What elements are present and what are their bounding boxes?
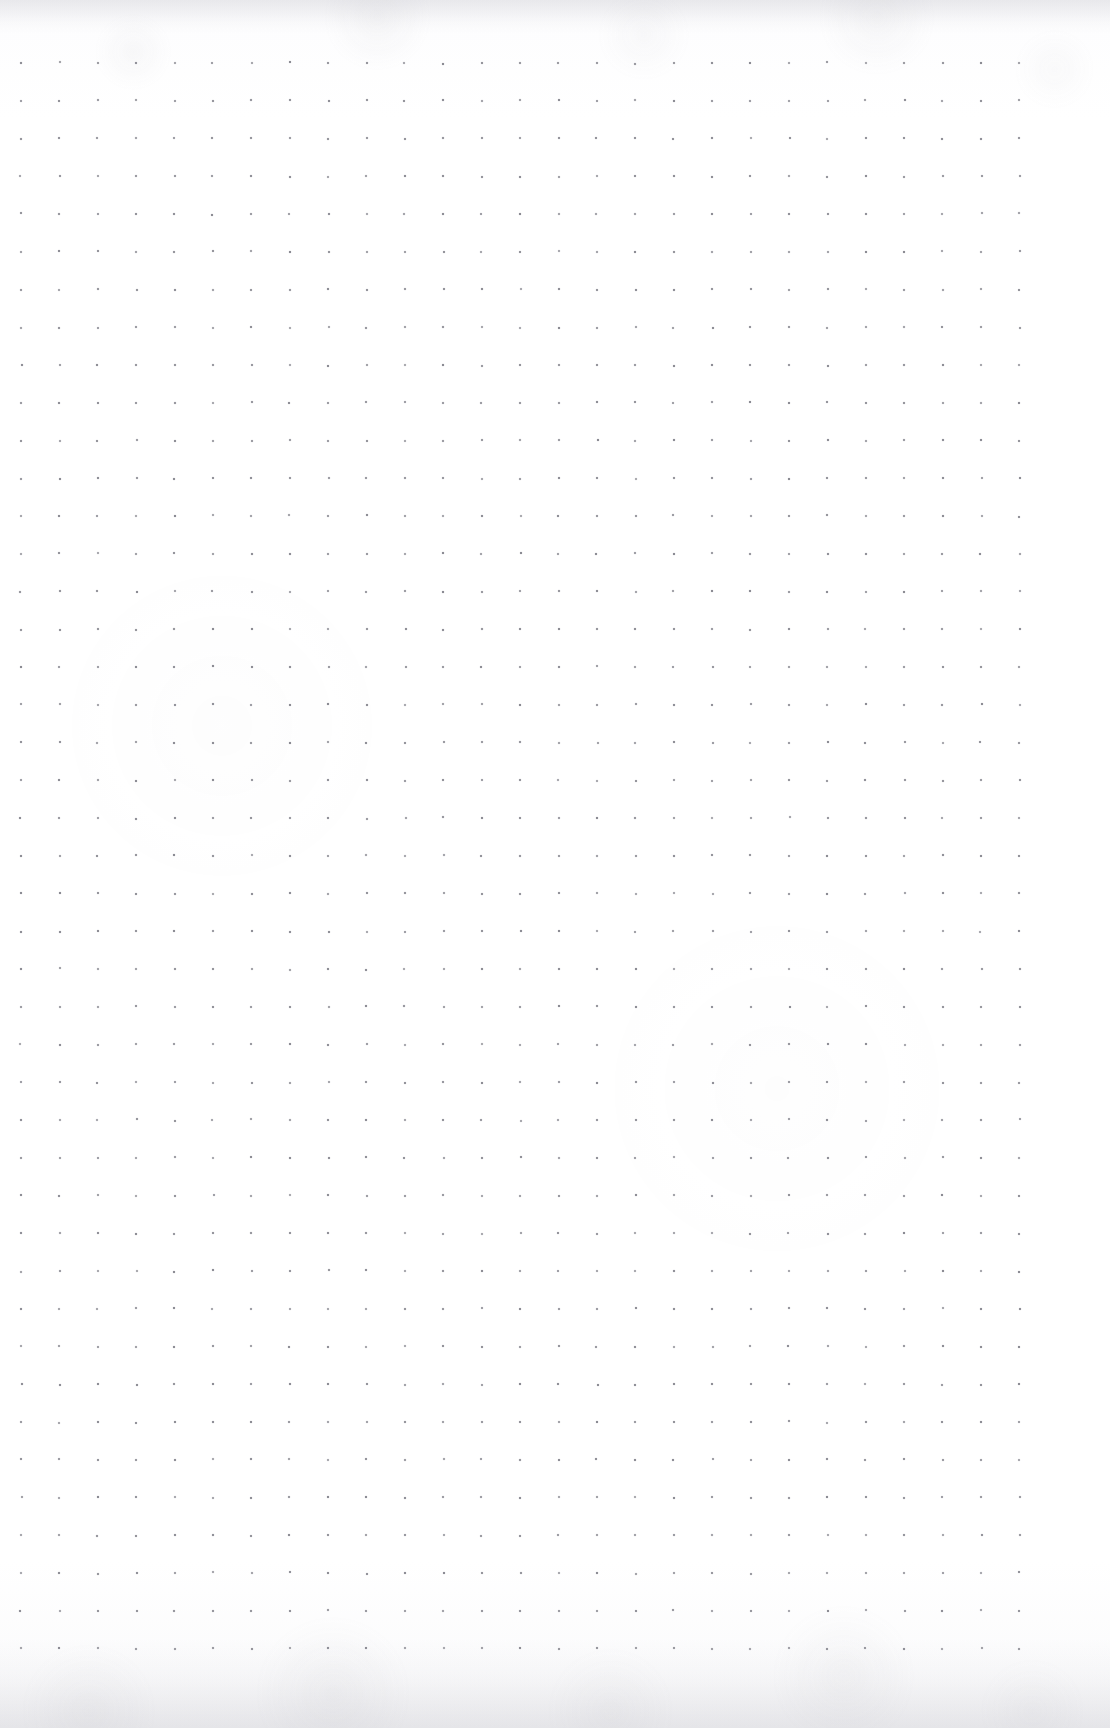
grid-dot [1019, 1006, 1021, 1008]
grid-dot [251, 930, 253, 932]
grid-dot [711, 1421, 713, 1423]
grid-dot [673, 62, 675, 64]
grid-dot [941, 704, 943, 706]
grid-dot [212, 1610, 214, 1612]
grid-dot [212, 703, 214, 705]
grid-dot [596, 401, 598, 403]
grid-dot [941, 628, 943, 630]
grid-dot [942, 477, 944, 479]
grid-dot [327, 1572, 329, 1574]
grid-dot [942, 402, 944, 404]
grid-dot [404, 1270, 406, 1272]
grid-dot [212, 440, 214, 442]
grid-dot [673, 1156, 675, 1158]
grid-dot [558, 1345, 560, 1347]
grid-dot [136, 1384, 138, 1386]
grid-dot [327, 288, 329, 290]
grid-dot [788, 591, 790, 593]
grid-dot [174, 175, 176, 177]
grid-dot [597, 742, 599, 744]
grid-dot [788, 478, 790, 480]
grid-dot [749, 854, 751, 856]
grid-dot [788, 1610, 790, 1612]
grid-dot [174, 817, 176, 819]
grid-dot [712, 1157, 714, 1159]
grid-dot [865, 62, 867, 64]
grid-dot [405, 817, 407, 819]
grid-dot [519, 478, 521, 480]
grid-dot [865, 591, 867, 593]
grid-dot [596, 780, 598, 782]
grid-dot [942, 854, 944, 856]
grid-dot [327, 1346, 329, 1348]
grid-dot [327, 741, 329, 743]
grid-dot [672, 1044, 674, 1046]
grid-dot [366, 289, 368, 291]
grid-dot [96, 1082, 98, 1084]
grid-dot [750, 137, 752, 139]
grid-dot [865, 213, 867, 215]
grid-dot [558, 930, 560, 932]
grid-dot [135, 62, 137, 64]
grid-dot [557, 1043, 559, 1045]
grid-dot [750, 1119, 752, 1121]
grid-dot [903, 1383, 905, 1385]
grid-dot [519, 1497, 521, 1499]
grid-dot [442, 63, 444, 65]
grid-dot [711, 213, 713, 215]
grid-dot [136, 289, 138, 291]
grid-dot [21, 1383, 23, 1385]
grid-dot [251, 968, 253, 970]
grid-dot [20, 1232, 22, 1234]
grid-dot [865, 1270, 867, 1272]
grid-dot [289, 1119, 291, 1121]
grid-dot [212, 1421, 214, 1423]
grid-dot [942, 666, 944, 668]
grid-dot [212, 1647, 214, 1649]
grid-dot [480, 1458, 482, 1460]
grid-dot [96, 440, 98, 442]
grid-dot [443, 251, 445, 253]
grid-dot [173, 854, 175, 856]
grid-dot [557, 553, 559, 555]
grid-dot [596, 855, 598, 857]
grid-dot [635, 326, 637, 328]
grid-dot [174, 364, 176, 366]
grid-dot [750, 1534, 752, 1536]
grid-dot [711, 477, 713, 479]
grid-dot [941, 250, 943, 252]
grid-dot [20, 1157, 22, 1159]
grid-dot [635, 1006, 637, 1008]
grid-dot [174, 515, 176, 517]
grid-dot [788, 1307, 790, 1309]
grid-dot [826, 1119, 828, 1121]
grid-dot [942, 1534, 944, 1536]
grid-dot [750, 213, 752, 215]
grid-dot [20, 1194, 22, 1196]
grid-dot [97, 1006, 99, 1008]
grid-dot [481, 930, 483, 932]
grid-dot [634, 742, 636, 744]
grid-dot [327, 703, 329, 705]
grid-dot [135, 553, 137, 555]
grid-dot [634, 1270, 636, 1272]
grid-dot [903, 1081, 905, 1083]
notebook-page [0, 0, 1110, 1728]
grid-dot [1018, 440, 1020, 442]
grid-dot [980, 1195, 982, 1197]
grid-dot [941, 1648, 943, 1650]
grid-dot [97, 1459, 99, 1461]
grid-dot [135, 1081, 137, 1083]
grid-dot [519, 1044, 521, 1046]
grid-dot [903, 251, 905, 253]
grid-dot [212, 968, 214, 970]
grid-dot [289, 553, 291, 555]
grid-dot [97, 402, 99, 404]
grid-dot [20, 100, 22, 102]
grid-dot [1018, 516, 1020, 518]
grid-dot [788, 666, 790, 668]
grid-dot [980, 1421, 982, 1423]
grid-dot [20, 931, 22, 933]
grid-dot [596, 628, 598, 630]
grid-dot [365, 742, 367, 744]
